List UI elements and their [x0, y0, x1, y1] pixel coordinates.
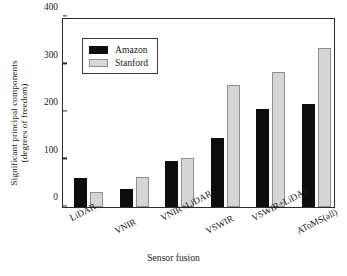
legend-item-amazon: Amazon [89, 43, 148, 56]
bar-amazon-vnir [120, 189, 133, 207]
bar-amazon-lidar [74, 178, 87, 207]
bar-group [256, 19, 285, 207]
y-axis-title-line-1: Significant principal components [10, 28, 20, 218]
legend-label-amazon: Amazon [115, 44, 148, 55]
bar-amazon-vswir [211, 138, 224, 207]
bar-amazon-vswir-lidar [256, 109, 269, 207]
bar-stanford-vswir-lidar [272, 72, 285, 207]
bar-amazon-atoms-all [302, 104, 315, 207]
bar-stanford-vswir [227, 85, 240, 207]
legend-swatch-stanford [89, 59, 108, 67]
bar-group [211, 19, 240, 207]
y-tick-label: 100 [44, 145, 58, 155]
y-tick-label: 300 [44, 50, 58, 60]
bar-stanford-atoms-all [318, 48, 331, 207]
bar-amazon-vnir-lidar [165, 161, 178, 207]
x-axis-title: Sensor fusion [0, 252, 347, 263]
x-tick-label-vswir: VSWIR [204, 213, 235, 236]
bar-stanford-lidar [90, 192, 103, 207]
y-tick-mark [63, 15, 67, 16]
legend-swatch-amazon [89, 46, 108, 54]
bar-group [165, 19, 194, 207]
x-tick-label-vnir: VNIR [113, 217, 138, 236]
legend: AmazonStanford [82, 38, 158, 74]
y-tick-label: 400 [44, 2, 58, 12]
bar-stanford-vnir [136, 177, 149, 207]
bar-group [302, 19, 331, 207]
y-tick-label: 200 [44, 97, 58, 107]
bar-stanford-vnir-lidar [181, 158, 194, 207]
x-tick-label-atoms-all: AToMS(all) [295, 207, 339, 236]
y-tick-label: 0 [53, 192, 58, 202]
bar-chart-figure: Significant principal components (degree… [0, 0, 347, 276]
y-axis-title: Significant principal components (degree… [10, 28, 40, 218]
legend-item-stanford: Stanford [89, 56, 148, 69]
y-axis-title-line-2: (degrees of freedom) [20, 28, 30, 218]
legend-label-stanford: Stanford [115, 57, 148, 68]
